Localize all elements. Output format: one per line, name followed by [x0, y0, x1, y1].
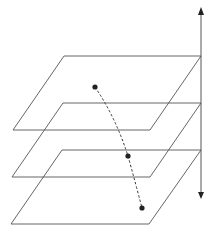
- arrow-up-icon: [198, 7, 204, 15]
- diagram-canvas: [0, 0, 214, 236]
- point-top: [92, 84, 97, 89]
- diagram-svg: [0, 0, 214, 236]
- planes-group: [11, 56, 201, 224]
- point-middle: [125, 153, 130, 158]
- middle-plane: [12, 103, 201, 177]
- point-bottom: [139, 205, 144, 210]
- dashed-trajectory: [95, 87, 142, 208]
- bottom-plane: [11, 150, 201, 224]
- top-plane: [13, 56, 201, 130]
- arrow-down-icon: [198, 192, 204, 199]
